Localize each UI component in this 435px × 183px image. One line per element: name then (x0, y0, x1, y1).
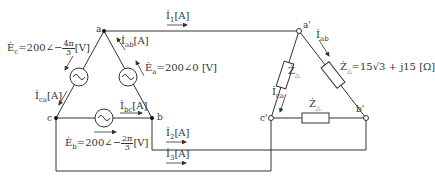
node-b (150, 116, 154, 120)
impedance-ab-label: Ż△=15√3 + j15 [Ω] (340, 62, 435, 74)
node-a-prime-label: a' (303, 21, 311, 30)
arrow-ea-icon (136, 61, 144, 76)
source-eb-label: Ėb=200∠−2π3[V] (65, 135, 148, 152)
current-i1-label: İ1[A] (166, 11, 189, 24)
node-c (54, 116, 58, 120)
current-iab-label: İab[A] (121, 36, 149, 49)
node-c-label: c (47, 114, 52, 123)
node-b-prime-label: b' (356, 105, 364, 114)
impedance-ca-label: Ż△ (288, 66, 300, 78)
current-ica-load-label: İca (272, 87, 284, 100)
node-b-label: b (157, 113, 163, 122)
impedance-bc-icon (302, 113, 329, 123)
source-ea-label: Ėa=200∠0 [V] (145, 63, 217, 76)
node-a (102, 29, 106, 33)
source-ea-icon (119, 68, 137, 86)
current-ibc-label: İbc[A] (120, 101, 147, 114)
current-i3-label: İ3[A] (166, 149, 189, 162)
arrow-ec-icon (65, 56, 73, 70)
current-iab-load-label: İab (316, 30, 329, 43)
source-eb-icon (95, 109, 113, 127)
node-a-label: a (96, 25, 101, 34)
source-ec-label: Ėc=200∠−4π3[V] (7, 40, 90, 57)
node-c-prime (269, 116, 274, 121)
node-b-prime (364, 116, 369, 121)
source-ec-icon (70, 68, 88, 86)
current-i2-label: İ2[A] (166, 128, 189, 141)
impedance-bc-label: Ż△ (309, 99, 321, 111)
current-ica-label: İca[A] (35, 91, 62, 104)
node-a-prime (297, 29, 302, 34)
node-c-prime-label: c' (260, 114, 268, 123)
